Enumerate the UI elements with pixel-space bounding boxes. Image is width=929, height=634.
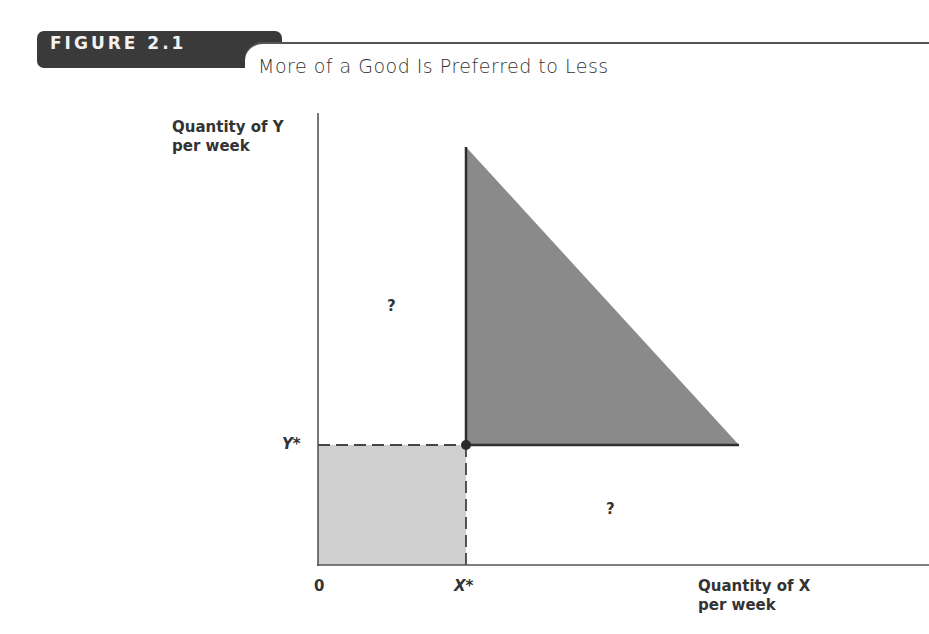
x-axis-label-line1: Quantity of X	[698, 577, 810, 596]
origin-label: 0	[314, 577, 324, 595]
more-preferred-region	[466, 147, 739, 445]
x-star-label: X*	[454, 577, 473, 595]
y-axis-label-line2: per week	[172, 137, 284, 156]
ambiguous-region-lower-right: ?	[606, 500, 615, 518]
x-axis-label-line2: per week	[698, 596, 810, 615]
bundle-point	[461, 440, 471, 450]
diagram-canvas	[0, 0, 929, 634]
ambiguous-region-upper-left: ?	[387, 297, 396, 315]
y-star-label: Y*	[282, 435, 301, 453]
y-axis-label-line1: Quantity of Y	[172, 118, 284, 137]
y-axis-label: Quantity of Y per week	[172, 118, 284, 156]
x-axis-label: Quantity of X per week	[698, 577, 810, 615]
less-preferred-region	[318, 445, 466, 565]
